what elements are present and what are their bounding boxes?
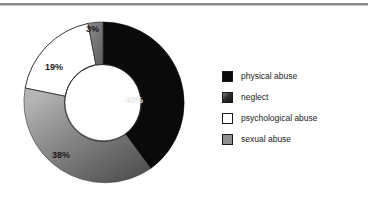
legend-label-neglect: neglect xyxy=(241,92,268,103)
chart-page: 40% 3% 19% 38% physical abuse neglect ps… xyxy=(0,0,368,211)
legend-label-psychological-abuse: psychological abuse xyxy=(241,113,318,124)
legend-item-neglect[interactable]: neglect xyxy=(222,87,362,107)
legend-swatch-sexual-abuse xyxy=(222,134,233,145)
slice-psychological-abuse xyxy=(25,23,96,96)
doughnut-chart: 40% 3% 19% 38% xyxy=(21,21,185,185)
legend-label-physical-abuse: physical abuse xyxy=(241,71,297,82)
legend-swatch-physical-abuse xyxy=(222,71,233,82)
slice-label-physical-abuse: 40% xyxy=(125,95,143,105)
slice-label-sexual-abuse: 38% xyxy=(52,150,70,160)
doughnut-svg xyxy=(21,21,185,185)
top-border-rule-shadow xyxy=(0,5,368,6)
legend-item-physical-abuse[interactable]: physical abuse xyxy=(222,66,362,86)
slice-label-psychological-abuse: 19% xyxy=(45,62,63,72)
chart-legend: physical abuse neglect psychological abu… xyxy=(222,66,362,150)
legend-swatch-neglect xyxy=(222,92,233,103)
slice-label-neglect: 3% xyxy=(86,24,99,34)
legend-item-sexual-abuse[interactable]: sexual abuse xyxy=(222,129,362,149)
legend-item-psychological-abuse[interactable]: psychological abuse xyxy=(222,108,362,128)
legend-swatch-psychological-abuse xyxy=(222,113,233,124)
legend-label-sexual-abuse: sexual abuse xyxy=(241,134,291,145)
